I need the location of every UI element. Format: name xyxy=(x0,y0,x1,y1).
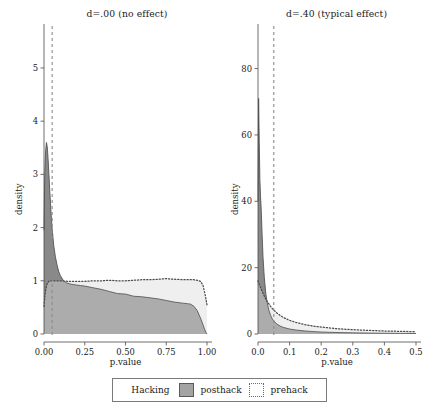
svg-text:20: 20 xyxy=(241,263,252,273)
svg-text:3: 3 xyxy=(33,169,38,179)
svg-text:0.50: 0.50 xyxy=(116,347,135,357)
svg-text:80: 80 xyxy=(241,64,252,74)
legend-title: Hacking xyxy=(131,385,169,395)
panel-right-xaxis-title: p.value xyxy=(258,357,416,367)
panel-left-xaxis-title: p.value xyxy=(44,357,207,367)
legend-swatch-posthack xyxy=(179,383,194,397)
svg-text:40: 40 xyxy=(241,196,252,206)
svg-text:1.00: 1.00 xyxy=(198,347,217,357)
svg-text:60: 60 xyxy=(241,130,252,140)
panel-left: d=.00 (no effect) 0123450.000.250.500.75… xyxy=(0,0,218,375)
svg-text:0.3: 0.3 xyxy=(346,347,359,357)
legend-label-posthack: posthack xyxy=(201,385,242,395)
svg-text:1: 1 xyxy=(33,276,38,286)
svg-text:0.4: 0.4 xyxy=(378,347,391,357)
panel-right: d=.40 (typical effect) 0204060800.00.10.… xyxy=(218,0,435,375)
panel-left-plot: 0123450.000.250.500.751.00 xyxy=(0,0,218,375)
legend-swatch-prehack xyxy=(249,383,264,397)
svg-text:4: 4 xyxy=(33,116,38,126)
panel-right-yaxis-title: density xyxy=(230,183,240,215)
svg-text:0.75: 0.75 xyxy=(157,347,176,357)
figure-root: d=.00 (no effect) 0123450.000.250.500.75… xyxy=(0,0,435,410)
panel-right-plot: 0204060800.00.10.20.30.40.5 xyxy=(218,0,435,375)
svg-text:0.5: 0.5 xyxy=(409,347,422,357)
svg-text:2: 2 xyxy=(33,223,38,233)
svg-text:0: 0 xyxy=(33,329,38,339)
svg-text:0.00: 0.00 xyxy=(35,347,54,357)
svg-text:0.1: 0.1 xyxy=(283,347,296,357)
panel-left-yaxis-title: density xyxy=(14,183,24,215)
svg-text:0: 0 xyxy=(247,329,252,339)
legend-label-prehack: prehack xyxy=(271,385,308,395)
svg-text:0.25: 0.25 xyxy=(75,347,94,357)
svg-text:5: 5 xyxy=(33,63,38,73)
legend: Hacking posthack prehack xyxy=(112,378,327,402)
svg-text:0.0: 0.0 xyxy=(251,347,264,357)
svg-text:0.2: 0.2 xyxy=(315,347,328,357)
